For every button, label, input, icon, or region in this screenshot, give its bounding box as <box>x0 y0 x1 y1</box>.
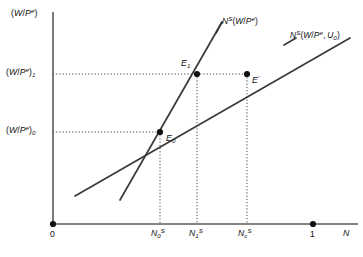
curve-label-uncompensated: NS(W/Pe) <box>222 17 258 25</box>
compensated-labour-supply-curve <box>75 38 350 196</box>
x-tick-endowment: 1 <box>310 230 315 239</box>
x-tick-employment-compensated: NcS <box>238 229 252 238</box>
x-tick-origin: 0 <box>50 230 55 239</box>
y-axis-title: (W/Pe) <box>11 9 38 18</box>
x-axis-title: N <box>343 229 349 238</box>
point-label-eprime: E′ <box>252 76 259 85</box>
point-label-e0: E0 <box>166 134 176 143</box>
curve-label-compensated: NS(W/Pe, U0) <box>290 31 340 39</box>
y-tick-real-wage-low: (W/Pe)0 <box>6 126 36 135</box>
point-e1-dot <box>194 71 200 77</box>
origin-dot <box>50 221 56 227</box>
point-eprime-dot <box>244 71 250 77</box>
point-e0-dot <box>157 129 163 135</box>
point-label-e1: E1 <box>181 59 191 68</box>
labour-supply-diagram: (W/Pe) (W/Pe)1 (W/Pe)0 0 N0S N1S NcS 1 N… <box>0 0 363 257</box>
x-tick-employment-short-run: N1S <box>189 229 203 238</box>
uncompensated-labour-supply-curve <box>120 22 222 200</box>
endowment-dot <box>310 221 316 227</box>
x-tick-employment-initial: N0S <box>151 229 165 238</box>
y-tick-real-wage-high: (W/Pe)1 <box>6 68 36 77</box>
